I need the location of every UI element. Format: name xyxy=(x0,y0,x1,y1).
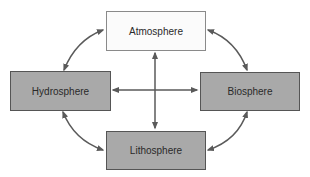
arrow-atmosphere-hydrosphere xyxy=(64,30,103,70)
earth-systems-diagram: Atmosphere Hydrosphere Biosphere Lithosp… xyxy=(0,0,310,177)
arrow-biosphere-lithosphere xyxy=(208,112,247,150)
arrow-hydrosphere-lithosphere xyxy=(63,112,103,150)
node-label: Hydrosphere xyxy=(32,86,89,97)
node-label: Lithosphere xyxy=(130,145,182,156)
arrow-atmosphere-biosphere xyxy=(208,30,247,70)
node-hydrosphere: Hydrosphere xyxy=(10,71,111,111)
node-atmosphere: Atmosphere xyxy=(106,11,206,51)
node-label: Atmosphere xyxy=(129,26,183,37)
node-lithosphere: Lithosphere xyxy=(106,131,206,170)
node-biosphere: Biosphere xyxy=(200,72,300,111)
node-label: Biosphere xyxy=(227,86,272,97)
